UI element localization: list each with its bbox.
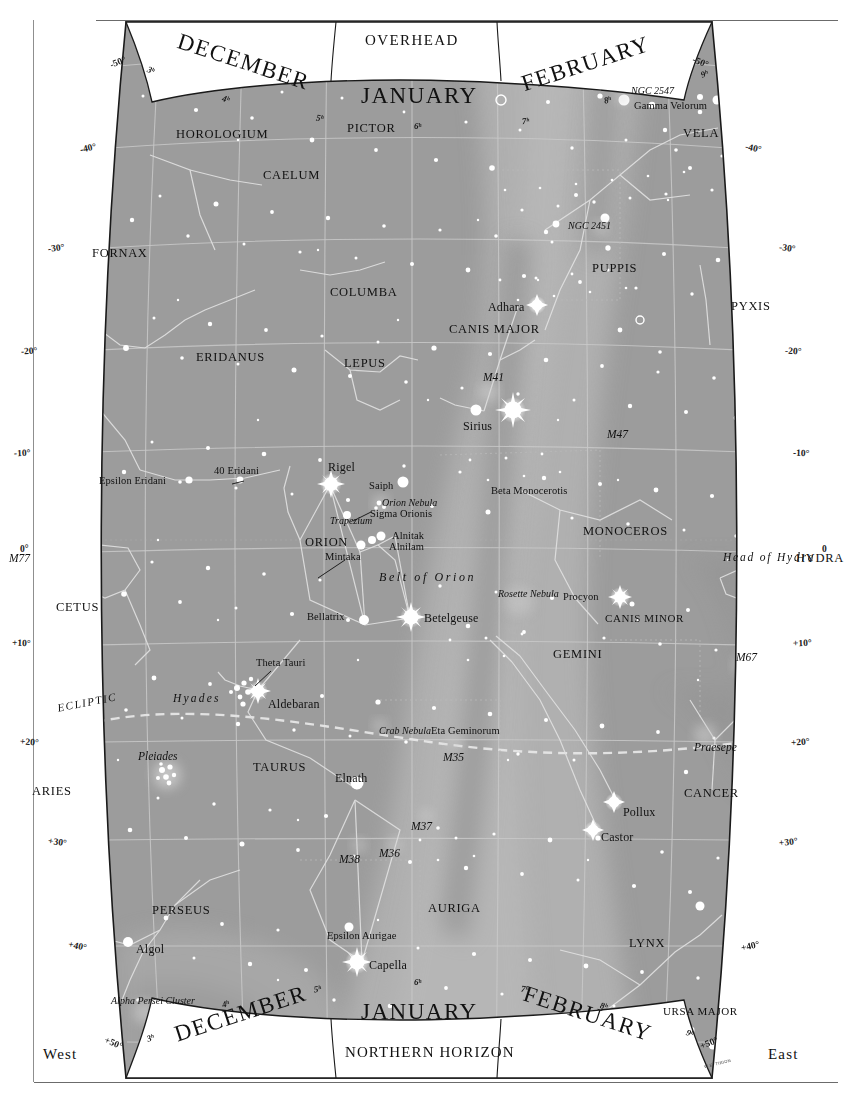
sky-body — [6, 10, 805, 1100]
